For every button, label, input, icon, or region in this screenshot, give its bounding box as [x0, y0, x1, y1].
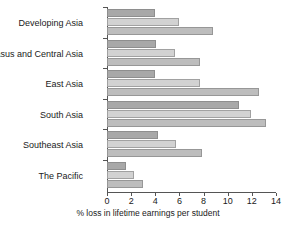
y-axis-tick: [103, 99, 107, 100]
bar: [107, 58, 200, 66]
bar: [107, 40, 156, 48]
y-axis-category-label: Developing Asia: [0, 18, 83, 29]
y-axis-category-label: Southeast Asia: [0, 140, 83, 151]
y-axis-category-label: The Pacific: [0, 171, 83, 182]
x-axis-tick-label: 10: [216, 196, 240, 207]
bar: [107, 27, 213, 35]
y-axis-category-label: East Asia: [0, 79, 83, 90]
bar: [107, 171, 134, 179]
y-axis-tick: [103, 38, 107, 39]
bar: [107, 101, 239, 109]
bar: [107, 162, 126, 170]
bar: [107, 180, 143, 188]
bar-chart-figure: Developing AsiaCaucasus and Central Asia…: [0, 0, 296, 225]
bar: [107, 70, 155, 78]
y-axis-tick: [103, 68, 107, 69]
y-axis-tick: [103, 160, 107, 161]
x-axis-line: [107, 192, 276, 193]
bar: [107, 149, 202, 157]
x-axis-tick-label: 8: [192, 196, 216, 207]
y-axis-category-label: South Asia: [0, 110, 83, 121]
y-axis-tick: [103, 129, 107, 130]
bar: [107, 79, 200, 87]
x-axis-tick-label: 2: [119, 196, 143, 207]
bar: [107, 88, 259, 96]
bar: [107, 49, 175, 57]
bar: [107, 9, 155, 17]
bar: [107, 131, 158, 139]
y-axis-category-label: Caucasus and Central Asia: [0, 49, 83, 60]
x-axis-tick-label: 4: [143, 196, 167, 207]
bar: [107, 18, 179, 26]
bar: [107, 140, 176, 148]
x-axis-tick-label: 0: [95, 196, 119, 207]
x-axis-title: % loss in lifetime earnings per student: [0, 208, 296, 218]
bar: [107, 119, 266, 127]
x-axis-tick-label: 14: [264, 196, 288, 207]
x-axis-tick-label: 6: [167, 196, 191, 207]
y-axis-tick: [103, 7, 107, 8]
bar: [107, 110, 251, 118]
x-axis-tick-label: 12: [240, 196, 264, 207]
